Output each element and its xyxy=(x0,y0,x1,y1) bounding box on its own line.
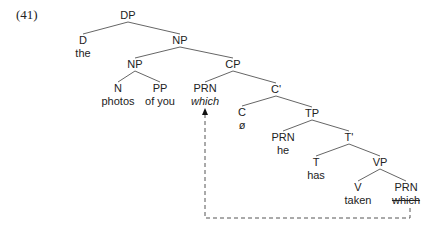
node-prn-trace: PRN xyxy=(394,181,417,193)
node-prn-he: PRN xyxy=(271,131,294,143)
arrowhead-icon xyxy=(202,108,208,115)
node-d: D xyxy=(79,34,87,46)
node-v: V xyxy=(354,181,361,193)
node-n: N xyxy=(114,82,122,94)
node-prn-which: PRN xyxy=(193,82,216,94)
edge-c_bar-c xyxy=(242,96,276,106)
edge-c_bar-tp xyxy=(276,96,312,107)
word-prn-he: he xyxy=(277,144,289,156)
edge-vp-prn_trace xyxy=(380,169,406,181)
word-n: photos xyxy=(101,95,134,107)
edge-np_top-cp xyxy=(180,47,233,58)
edge-cp-prn_which xyxy=(205,71,233,82)
edge-cp-c_bar xyxy=(233,71,276,83)
word-v: taken xyxy=(345,194,372,206)
edge-np_inner-n xyxy=(118,71,135,82)
edge-t_bar-t xyxy=(316,144,349,156)
word-c: ø xyxy=(239,119,246,131)
edge-np_top-np_inner xyxy=(135,47,180,58)
node-t: T xyxy=(313,156,320,168)
word-d: the xyxy=(75,47,90,59)
node-pp: PP xyxy=(153,82,168,94)
word-t: has xyxy=(307,169,325,181)
node-np-top: NP xyxy=(172,34,187,46)
node-t-bar: T' xyxy=(345,131,354,143)
edge-dp-d xyxy=(83,22,128,34)
node-dp: DP xyxy=(120,9,135,21)
node-c: C xyxy=(238,106,246,118)
node-c-bar: C' xyxy=(271,83,281,95)
node-cp: CP xyxy=(225,58,240,70)
edge-t_bar-vp xyxy=(349,144,380,156)
word-prn-trace: which xyxy=(392,194,420,206)
node-vp: VP xyxy=(373,156,388,168)
word-pp: of you xyxy=(145,95,175,107)
edge-vp-v xyxy=(358,169,380,181)
edge-tp-prn_he xyxy=(283,120,312,131)
edge-tp-t_bar xyxy=(312,120,349,131)
word-prn-which: which xyxy=(191,95,219,107)
node-np-inner: NP xyxy=(127,58,142,70)
node-tp: TP xyxy=(305,107,319,119)
edge-dp-np_top xyxy=(128,22,180,34)
edge-np_inner-pp xyxy=(135,71,160,82)
